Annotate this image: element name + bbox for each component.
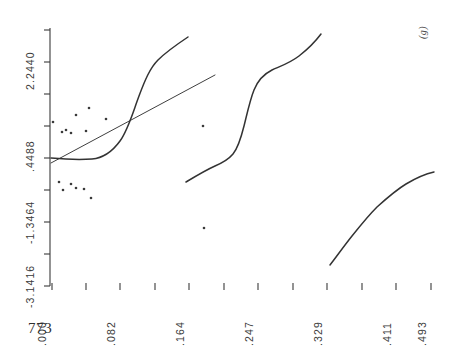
y-tick-label-0: 2.2440 bbox=[24, 51, 36, 90]
y-axis-ticks bbox=[44, 30, 50, 286]
x-tick-label-2: .164 bbox=[174, 321, 186, 346]
x-tick-label-4: .329 bbox=[312, 321, 324, 346]
plot-canvas bbox=[0, 0, 458, 352]
x-tick-label-5: .411 bbox=[381, 322, 393, 346]
series-sigmoid-curve-1 bbox=[51, 37, 188, 159]
series-concave-curve-3 bbox=[330, 172, 434, 265]
page-number: 773 bbox=[28, 320, 52, 337]
y-tick-label-1: .4488 bbox=[24, 140, 36, 172]
figure-panel: 2.2440 .4488 -1.3464 -3.1416 .000 .082 .… bbox=[0, 0, 458, 352]
series-fitted-line bbox=[51, 75, 215, 163]
x-tick-label-3: .247 bbox=[243, 321, 255, 346]
x-axis-ticks bbox=[52, 283, 431, 290]
y-tick-label-3: -3.1416 bbox=[24, 265, 36, 308]
series-sigmoid-curve-2 bbox=[186, 34, 321, 182]
x-tick-label-1: .082 bbox=[105, 321, 117, 346]
panel-tag-label: (g) bbox=[417, 26, 428, 39]
y-tick-label-2: -1.3464 bbox=[24, 201, 36, 244]
x-tick-label-6: .493 bbox=[416, 321, 428, 346]
